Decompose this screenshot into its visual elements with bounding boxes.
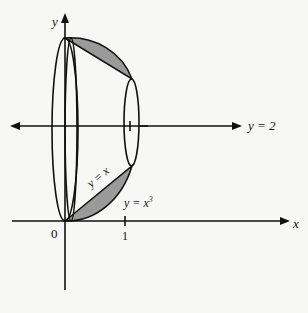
cubic-label-base: y = x	[123, 196, 149, 210]
origin-label: 0	[51, 226, 58, 241]
cubic-label: y = x3	[123, 195, 153, 210]
solid-of-revolution-diagram: y x 0 1 y = 2 y = x y = x3	[0, 0, 308, 313]
x-axis-label: x	[292, 216, 299, 231]
right-ellipse	[124, 79, 139, 166]
rotation-line-label: y = 2	[246, 118, 276, 133]
cubic-label-exp: 3	[148, 195, 153, 204]
tick-label-1: 1	[122, 229, 128, 243]
y-axis-label: y	[50, 14, 58, 29]
inner-ellipse	[65, 38, 77, 221]
